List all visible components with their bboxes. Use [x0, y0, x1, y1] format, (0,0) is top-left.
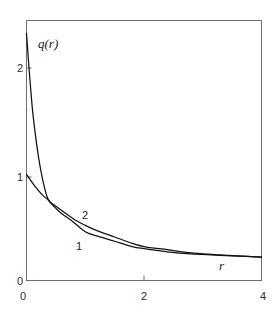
x-axis-label: r	[219, 258, 225, 273]
x-tick-label-2: 2	[141, 290, 147, 302]
y-tick-label-2: 2	[17, 62, 23, 74]
x-tick-label-4: 4	[260, 290, 266, 302]
chart-svg: 0 2 4 0 1 2 q(r) r 1 2	[0, 0, 279, 316]
y-tick-label-1: 1	[17, 171, 23, 183]
y-axis-ticks	[27, 68, 32, 281]
curve-label-1: 1	[76, 240, 82, 252]
figure-container: 0 2 4 0 1 2 q(r) r 1 2	[0, 0, 279, 316]
curve-label-2: 2	[82, 209, 88, 221]
curve-series-1	[27, 174, 262, 257]
curve-series-2	[27, 33, 262, 257]
y-tick-label-0: 0	[17, 275, 23, 287]
y-axis-label: q(r)	[38, 36, 58, 51]
x-axis-ticks	[27, 276, 262, 281]
plot-frame	[27, 21, 262, 281]
x-tick-label-0: 0	[20, 290, 26, 302]
